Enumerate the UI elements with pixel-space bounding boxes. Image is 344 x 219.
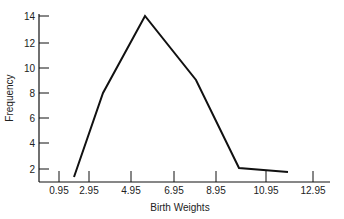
y-tick-labels: 14 12 10 8 6 4 2	[24, 11, 36, 175]
x-tick-label: 2.95	[79, 185, 99, 196]
y-tick-label: 12	[24, 38, 36, 49]
x-tick-label: 12.95	[300, 185, 325, 196]
x-tick-label: 0.95	[49, 185, 69, 196]
y-ticks	[39, 16, 49, 169]
x-tick-label: 8.95	[206, 185, 226, 196]
frequency-polygon-chart: 14 12 10 8 6 4 2 0.95 2.95 4.95 6.95 8.9…	[0, 0, 344, 219]
y-tick-label: 14	[24, 11, 36, 22]
x-tick-labels: 0.95 2.95 4.95 6.95 8.95 10.95 12.95	[49, 185, 326, 196]
y-tick-label: 4	[29, 138, 35, 149]
x-tick-label: 10.95	[253, 185, 278, 196]
x-tick-label: 4.95	[121, 185, 141, 196]
y-tick-label: 6	[29, 113, 35, 124]
y-tick-label: 10	[24, 63, 36, 74]
y-tick-label: 8	[29, 88, 35, 99]
frequency-line	[74, 16, 288, 177]
y-axis-label: Frequency	[4, 74, 15, 121]
x-axis-label: Birth Weights	[150, 202, 209, 213]
y-tick-label: 2	[29, 164, 35, 175]
x-tick-label: 6.95	[164, 185, 184, 196]
x-ticks	[59, 171, 313, 182]
